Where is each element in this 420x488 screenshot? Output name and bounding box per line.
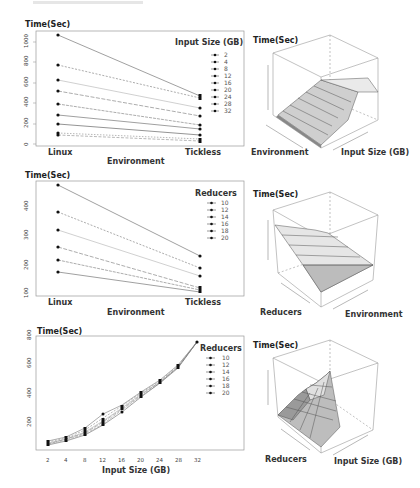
y-axis-title: Input Size (GB) bbox=[341, 148, 409, 157]
legend-item: 10 bbox=[222, 354, 230, 361]
z-axis-title: Time(Sec) bbox=[253, 341, 298, 350]
chart-input-size-reducers: Time(Sec) 200 400 600 800 2 4 8 12 16 20… bbox=[0, 325, 245, 475]
x-tick: 28 bbox=[175, 457, 182, 463]
y-tick: 800 bbox=[23, 55, 29, 66]
z-axis-title: Time(Sec) bbox=[253, 190, 298, 199]
y-tick: 800 bbox=[26, 329, 32, 340]
y-axis-title: Time(Sec) bbox=[37, 327, 82, 336]
y-axis bbox=[33, 42, 36, 144]
plot-frame bbox=[36, 181, 244, 296]
x-tick: 4 bbox=[64, 457, 68, 463]
x-tick-linux: Linux bbox=[48, 298, 73, 307]
y-tick: 400 bbox=[23, 96, 29, 107]
legend-item: 4 bbox=[224, 58, 228, 65]
series-lines bbox=[48, 342, 197, 445]
x-axis-title: Environment bbox=[251, 148, 309, 157]
y-tick: 200 bbox=[26, 416, 32, 427]
x-ticks: 2 4 8 12 16 20 24 28 32 bbox=[46, 457, 201, 463]
legend-item: 8 bbox=[224, 65, 228, 72]
legend-item: 24 bbox=[224, 93, 232, 100]
series-lines bbox=[58, 35, 200, 141]
legend-item: 32 bbox=[224, 107, 232, 114]
chart-env-input-size: Time(Sec) 0 200 400 600 800 1000 Linux T… bbox=[0, 18, 245, 168]
legend-item: 16 bbox=[222, 375, 230, 382]
legend-item: 18 bbox=[222, 382, 230, 389]
x-tick: 20 bbox=[137, 457, 144, 463]
legend-item: 12 bbox=[222, 361, 230, 368]
y-tick: 400 bbox=[26, 387, 32, 398]
x-tick-tickless: Tickless bbox=[185, 298, 221, 307]
legend-item: 28 bbox=[224, 100, 232, 107]
x-tick: 2 bbox=[46, 457, 50, 463]
y-axis-title: Time(Sec) bbox=[25, 20, 70, 29]
y-tick: 200 bbox=[23, 117, 29, 128]
surface-env-input-size: Time(Sec) Environment Input Size (GB) bbox=[248, 20, 420, 160]
x-axis-title: Reducers bbox=[260, 308, 302, 317]
legend-item: 10 bbox=[221, 199, 229, 206]
legend-item: 12 bbox=[221, 206, 229, 213]
y-tick: 300 bbox=[23, 229, 29, 240]
legend: Reducers 10 12 14 16 18 20 bbox=[200, 344, 242, 396]
legend-item: 18 bbox=[221, 227, 229, 234]
data-points bbox=[56, 33, 201, 143]
plot-frame bbox=[36, 31, 244, 146]
legend-item: 12 bbox=[224, 72, 232, 79]
x-axis-title: Reducers bbox=[265, 455, 307, 464]
x-axis-title: Environment bbox=[107, 308, 165, 317]
y-tick: 1000 bbox=[23, 34, 29, 48]
legend-item: 14 bbox=[221, 213, 229, 220]
data-points bbox=[47, 340, 199, 446]
x-tick-linux: Linux bbox=[48, 148, 73, 157]
surface-reducers-env: Time(Sec) Reducers Environment bbox=[248, 165, 420, 320]
y-tick: 400 bbox=[23, 200, 29, 211]
z-axis-title: Time(Sec) bbox=[253, 36, 298, 45]
legend-item: 20 bbox=[224, 86, 232, 93]
data-points bbox=[56, 183, 201, 293]
legend: Reducers 10 12 14 16 18 20 bbox=[195, 189, 237, 241]
y-tick: 600 bbox=[23, 76, 29, 87]
y-tick: 600 bbox=[26, 357, 32, 368]
legend-item: 20 bbox=[222, 389, 230, 396]
surface bbox=[278, 80, 358, 145]
legend-item: 20 bbox=[221, 234, 229, 241]
legend-item: 16 bbox=[221, 220, 229, 227]
series-lines bbox=[58, 185, 200, 292]
surface-reducers-input-size: Time(Sec) Reducers Input Size (GB) bbox=[248, 325, 420, 488]
legend-title: Reducers bbox=[200, 344, 242, 353]
x-axis-title: Input Size (GB) bbox=[102, 466, 170, 475]
cropped-caption-fragment bbox=[33, 1, 143, 4]
x-tick: 16 bbox=[118, 457, 125, 463]
legend-item: 2 bbox=[224, 51, 228, 58]
y-axis-title: Environment bbox=[345, 310, 403, 319]
y-tick: 0 bbox=[23, 142, 29, 146]
x-tick: 32 bbox=[194, 457, 201, 463]
y-tick: 100 bbox=[23, 287, 29, 298]
y-axis-title: Input Size (GB) bbox=[334, 457, 402, 466]
legend-item: 14 bbox=[222, 368, 230, 375]
x-tick: 12 bbox=[99, 457, 106, 463]
x-tick: 24 bbox=[156, 457, 163, 463]
y-tick: 200 bbox=[23, 259, 29, 270]
x-tick-tickless: Tickless bbox=[185, 148, 221, 157]
y-axis-title: Time(Sec) bbox=[25, 171, 70, 180]
legend-title: Reducers bbox=[195, 189, 237, 198]
surface bbox=[278, 371, 340, 447]
x-axis-title: Environment bbox=[107, 157, 165, 166]
x-tick: 8 bbox=[83, 457, 87, 463]
legend: Input Size (GB) 2 4 8 12 16 20 24 28 32 bbox=[175, 38, 243, 114]
legend-item: 16 bbox=[224, 79, 232, 86]
chart-env-reducers: Time(Sec) 100 200 300 400 Linux Tickless… bbox=[0, 168, 245, 323]
legend-title: Input Size (GB) bbox=[175, 38, 243, 47]
